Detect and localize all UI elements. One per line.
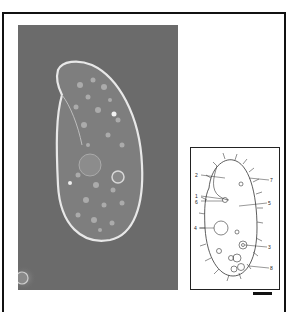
label-3: 3: [268, 244, 271, 250]
micrograph-photo: [18, 25, 178, 290]
label-8: 8: [270, 265, 273, 271]
label-7: 7: [270, 177, 273, 183]
label-5: 5: [268, 200, 271, 206]
label-4: 4: [194, 225, 197, 231]
scale-bar: [253, 292, 272, 295]
diagram-inset: 2 7 1 6 5 4 3 8: [190, 147, 280, 290]
label-2: 2: [195, 172, 198, 178]
label-6: 6: [195, 199, 198, 205]
